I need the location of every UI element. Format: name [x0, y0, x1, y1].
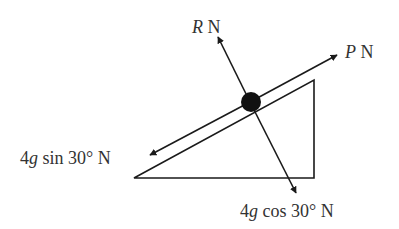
weight-component-perpendicular-arrow [250, 102, 296, 193]
down-slope-coef: 4 [20, 148, 29, 168]
down-slope-g: g [29, 148, 38, 168]
normal-reaction-arrow [218, 37, 250, 102]
inclined-plane-triangle [134, 80, 314, 178]
down-slope-force-label: 4g sin 30° N [20, 148, 111, 168]
applied-force-unit: N [356, 42, 374, 62]
applied-force-arrow [250, 55, 337, 102]
perpendicular-rest: cos 30° N [258, 201, 334, 221]
weight-component-along-slope-arrow [150, 102, 250, 155]
particle [241, 92, 261, 112]
force-diagram: R N P N 4g sin 30° N 4g cos 30° N [0, 0, 399, 229]
applied-force-label: P N [344, 42, 374, 62]
normal-reaction-label: R N [191, 17, 221, 37]
normal-reaction-symbol: R [191, 17, 203, 37]
perpendicular-g: g [249, 201, 258, 221]
applied-force-symbol: P [344, 42, 356, 62]
perpendicular-force-label: 4g cos 30° N [240, 201, 334, 221]
perpendicular-coef: 4 [240, 201, 249, 221]
normal-reaction-unit: N [203, 17, 221, 37]
down-slope-rest: sin 30° N [38, 148, 111, 168]
